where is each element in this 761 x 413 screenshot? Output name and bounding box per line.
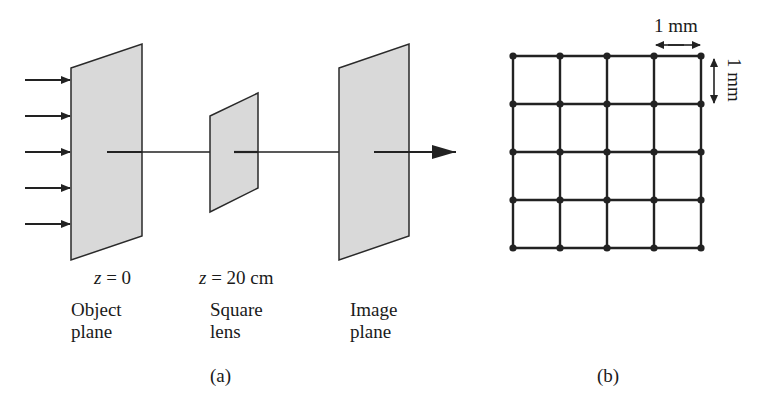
image-plane-label-line1: Image — [350, 300, 397, 320]
horizontal-scale-label: 1 mm — [654, 16, 698, 36]
panel-b-caption: (b) — [597, 366, 619, 386]
diagram-canvas — [0, 0, 761, 413]
object-plane-label-line1: Object — [71, 300, 122, 320]
object-plane-label-line2: plane — [71, 322, 112, 342]
vertical-scale-label: 1 mm — [723, 58, 745, 102]
object-plane-z-label: z = 0 — [94, 268, 131, 288]
lens-label-line2: lens — [210, 322, 241, 342]
panel-a-caption: (a) — [210, 366, 231, 386]
image-plane-label-line2: plane — [350, 322, 391, 342]
lens-z-label: z = 20 cm — [199, 268, 274, 288]
incident-light-arrows — [25, 80, 70, 224]
lens-label-line1: Square — [210, 300, 263, 320]
